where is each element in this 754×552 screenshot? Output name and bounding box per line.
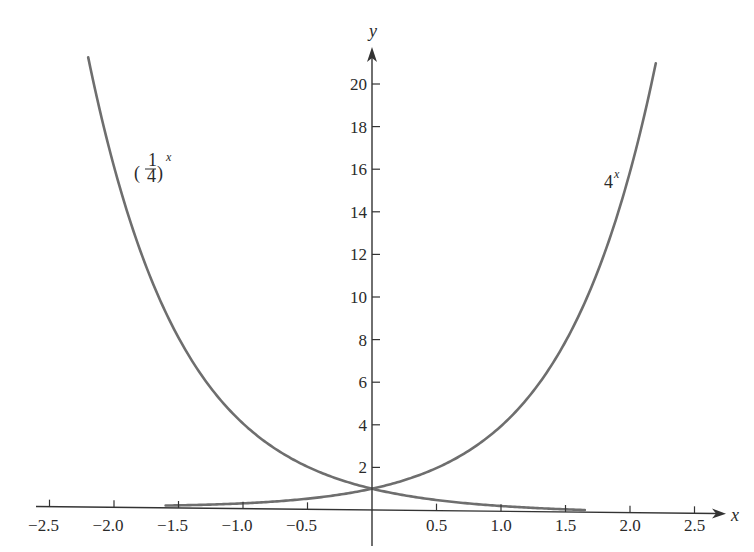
exponential-chart: xy−2.5−2.0−1.5−1.0−0.50.51.01.52.02.5246… — [0, 0, 754, 552]
axes: xy−2.5−2.0−1.5−1.0−0.50.51.01.52.02.5246… — [28, 21, 739, 546]
x-axis-label: x — [730, 505, 739, 525]
y-tick-label: 12 — [350, 245, 367, 264]
exponent-x: x — [613, 167, 620, 181]
x-tick-label: −0.5 — [286, 516, 317, 535]
y-tick-label: 10 — [350, 288, 367, 307]
y-tick-label: 6 — [359, 373, 368, 392]
y-tick-label: 20 — [350, 75, 367, 94]
paren-left: ( — [134, 163, 140, 184]
x-tick-label: −2.5 — [28, 516, 59, 535]
x-tick-label: 2.0 — [619, 516, 640, 535]
base-four: 4 — [604, 172, 613, 192]
x-tick-label: 0.5 — [426, 516, 447, 535]
y-axis-label: y — [367, 21, 377, 41]
y-tick-label: 2 — [359, 458, 368, 477]
y-tick-label: 14 — [350, 203, 368, 222]
x-tick-label: −2.0 — [93, 516, 124, 535]
exponent-x: x — [165, 150, 172, 164]
y-tick-label: 8 — [359, 331, 368, 350]
label-four-power-x: 4x — [604, 167, 620, 192]
curve-quarter-power-x — [88, 57, 585, 510]
paren-right: ) — [157, 163, 163, 184]
x-tick-label: 2.5 — [684, 516, 705, 535]
label-quarter-power-x: (14)x — [134, 150, 172, 186]
y-tick-label: 18 — [350, 118, 367, 137]
fraction-denominator: 4 — [147, 166, 156, 186]
x-tick-label: −1.5 — [157, 516, 188, 535]
labels: (14)x4x — [134, 150, 620, 192]
x-axis-line — [36, 507, 716, 514]
curve-four-power-x — [166, 63, 656, 505]
x-tick-label: −1.0 — [222, 516, 253, 535]
y-tick-label: 16 — [350, 160, 367, 179]
x-tick-label: 1.5 — [555, 516, 576, 535]
x-tick-label: 1.0 — [490, 516, 511, 535]
y-tick-label: 4 — [359, 416, 368, 435]
